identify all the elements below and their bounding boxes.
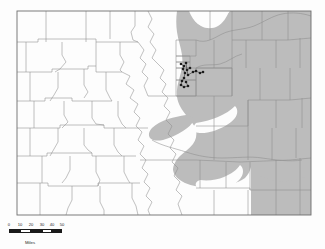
scalebar-segment	[42, 229, 52, 233]
scalebar-tick: 50	[60, 221, 65, 228]
occurrence-point	[202, 71, 205, 74]
occurrence-point	[184, 72, 187, 75]
scalebar-unit-label: Miles	[25, 240, 35, 245]
scalebar-segments	[7, 229, 65, 233]
occurrence-point	[189, 67, 192, 70]
occurrence-point	[180, 63, 183, 66]
scalebar-segment	[20, 229, 31, 233]
occurrence-point	[182, 68, 185, 71]
occurrence-point	[187, 74, 190, 77]
scalebar-tick: 40	[50, 221, 55, 228]
colorado-county-map[interactable]	[0, 0, 325, 249]
occurrence-point	[185, 62, 188, 65]
scalebar-tick: 20	[29, 221, 34, 228]
occurrence-point	[186, 69, 189, 72]
occurrence-point	[187, 85, 190, 88]
scalebar: 0 10 20 30 40 50 Miles	[7, 221, 77, 247]
occurrence-point	[195, 70, 198, 73]
scalebar-tick-labels: 0 10 20 30 40 50	[7, 221, 69, 228]
scalebar-tick: 30	[40, 221, 45, 228]
occurrence-point	[181, 80, 184, 83]
scalebar-segment	[9, 229, 20, 233]
occurrence-point	[185, 81, 188, 84]
occurrence-point	[183, 65, 186, 68]
occurrence-point	[192, 71, 195, 74]
distribution-map-figure: 0 10 20 30 40 50 Miles	[0, 0, 325, 249]
occurrence-point	[183, 77, 186, 80]
scalebar-tick: 10	[18, 221, 23, 228]
scalebar-segment	[52, 229, 62, 233]
scalebar-tick: 0	[8, 221, 10, 228]
occurrence-point	[183, 86, 186, 89]
occurrence-point	[180, 84, 183, 87]
scalebar-segment	[31, 229, 42, 233]
occurrence-point	[199, 72, 202, 75]
